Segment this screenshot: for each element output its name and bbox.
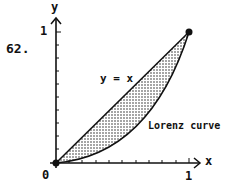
line-y-equals-x bbox=[56, 32, 189, 163]
problem-number: 62. bbox=[6, 41, 29, 56]
endpoint-1-1 bbox=[186, 29, 193, 36]
origin-label: 0 bbox=[42, 168, 49, 182]
lorenz-plot bbox=[0, 0, 235, 189]
x-tick-label-1: 1 bbox=[185, 169, 192, 183]
x-axis-label: x bbox=[205, 154, 212, 168]
y-tick-label-1: 1 bbox=[40, 24, 47, 38]
curve-label: Lorenz curve bbox=[148, 120, 220, 131]
line-label: y = x bbox=[100, 72, 133, 85]
y-axis-label: y bbox=[51, 0, 58, 14]
origin-point bbox=[53, 160, 60, 167]
